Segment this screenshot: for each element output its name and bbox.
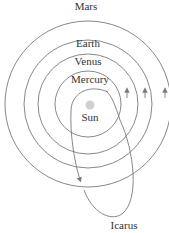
venus-label: Venus	[75, 55, 102, 67]
mars-label: Mars	[75, 0, 98, 12]
earth-label: Earth	[76, 37, 100, 49]
sun-icon	[86, 101, 95, 110]
icarus-label: Icarus	[111, 219, 138, 231]
mercury-label: Mercury	[71, 73, 109, 85]
orbit-diagram: Mars Earth Venus Mercury Sun Icarus	[0, 0, 169, 233]
sun-label: Sun	[81, 111, 99, 123]
